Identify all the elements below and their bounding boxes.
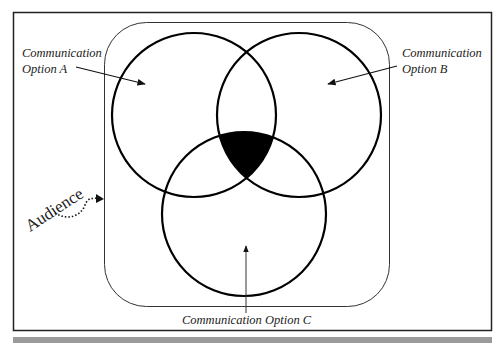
footer-bar [13,337,492,343]
label-option-b: Communication [402,46,482,60]
label-audience: Audience [22,184,87,235]
circle-a [112,33,276,197]
label-option-c: Communication Option C [182,313,312,327]
label-option-a-line2: Option A [22,62,68,76]
audience-arrowhead [96,194,104,203]
arrow-a [76,67,145,84]
venn-diagram: Communication Option A Communication Opt… [0,0,502,343]
label-option-b-line2: Option B [402,62,448,76]
circle-b [217,33,381,197]
label-option-a: Communication [22,46,102,60]
arrow-b [328,66,397,84]
